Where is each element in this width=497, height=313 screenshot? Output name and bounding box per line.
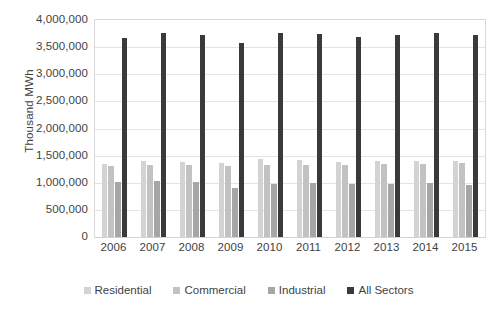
bar-residential-2010 bbox=[258, 159, 264, 237]
bar-group bbox=[173, 20, 212, 237]
bar-residential-2011 bbox=[297, 160, 303, 237]
bar-industrial-2008 bbox=[193, 182, 199, 237]
plot-area bbox=[94, 19, 486, 238]
x-axis-tick-label: 2010 bbox=[257, 241, 283, 253]
bar-commercial-2007 bbox=[147, 165, 153, 237]
legend-swatch-icon bbox=[84, 287, 91, 294]
y-axis-tick-label: 2,500,000 bbox=[22, 94, 88, 106]
y-axis-tick-label: 3,500,000 bbox=[22, 40, 88, 52]
bar-allsectors-2014 bbox=[434, 33, 440, 237]
bar-group bbox=[446, 20, 485, 237]
bar-allsectors-2007 bbox=[161, 33, 167, 237]
bar-allsectors-2012 bbox=[356, 37, 362, 237]
bar-industrial-2009 bbox=[232, 188, 238, 237]
x-axis-tick-label: 2007 bbox=[140, 241, 166, 253]
bar-industrial-2006 bbox=[115, 182, 121, 237]
legend-swatch-icon bbox=[347, 287, 354, 294]
bar-allsectors-2009 bbox=[239, 43, 245, 237]
bar-industrial-2013 bbox=[388, 184, 394, 237]
bar-residential-2006 bbox=[102, 164, 108, 237]
axis-baseline bbox=[95, 237, 485, 238]
legend-label: Residential bbox=[95, 284, 152, 296]
bar-commercial-2010 bbox=[264, 165, 270, 237]
bar-group bbox=[134, 20, 173, 237]
bar-allsectors-2010 bbox=[278, 33, 284, 237]
bar-industrial-2007 bbox=[154, 181, 160, 237]
bar-commercial-2014 bbox=[420, 164, 426, 237]
bar-industrial-2014 bbox=[427, 183, 433, 237]
y-axis-tick-label: 4,000,000 bbox=[22, 13, 88, 25]
bar-group bbox=[329, 20, 368, 237]
legend-label: Industrial bbox=[279, 284, 326, 296]
x-axis-tick-label: 2006 bbox=[101, 241, 127, 253]
bar-allsectors-2008 bbox=[200, 35, 206, 238]
legend-label: Commercial bbox=[184, 284, 245, 296]
bar-group bbox=[95, 20, 134, 237]
bar-group bbox=[290, 20, 329, 237]
legend-item[interactable]: All Sectors bbox=[347, 284, 413, 296]
x-axis-tick-label: 2009 bbox=[218, 241, 244, 253]
y-axis-tick-label: 1,500,000 bbox=[22, 149, 88, 161]
x-axis-tick-label: 2015 bbox=[452, 241, 478, 253]
x-axis-tick-label: 2013 bbox=[374, 241, 400, 253]
legend-item[interactable]: Industrial bbox=[268, 284, 326, 296]
bar-industrial-2015 bbox=[466, 185, 472, 237]
bar-commercial-2012 bbox=[342, 165, 348, 237]
bar-residential-2007 bbox=[141, 161, 147, 237]
bar-commercial-2006 bbox=[108, 166, 114, 237]
y-axis-tick-label: 500,000 bbox=[22, 203, 88, 215]
bar-allsectors-2013 bbox=[395, 35, 401, 237]
legend-item[interactable]: Commercial bbox=[173, 284, 245, 296]
bar-allsectors-2011 bbox=[317, 34, 323, 237]
bar-industrial-2010 bbox=[271, 184, 277, 237]
bar-industrial-2011 bbox=[310, 183, 316, 237]
bar-chart: Thousand MWh 4,000,0003,500,0003,000,000… bbox=[0, 0, 497, 313]
bar-commercial-2009 bbox=[225, 166, 231, 237]
y-axis-tick-label: 0 bbox=[22, 230, 88, 242]
y-axis-tick-labels: 4,000,0003,500,0003,000,0002,500,0002,00… bbox=[22, 19, 88, 238]
bar-residential-2014 bbox=[414, 161, 420, 237]
x-axis-tick-labels: 2006200720082009201020112012201320142015 bbox=[94, 241, 486, 263]
x-axis-tick-label: 2014 bbox=[413, 241, 439, 253]
bar-group bbox=[368, 20, 407, 237]
x-axis-tick-label: 2011 bbox=[296, 241, 321, 253]
bar-residential-2012 bbox=[336, 162, 342, 237]
bar-industrial-2012 bbox=[349, 184, 355, 237]
y-axis-tick-label: 3,000,000 bbox=[22, 67, 88, 79]
bar-residential-2013 bbox=[375, 161, 381, 237]
legend-label: All Sectors bbox=[358, 284, 413, 296]
bar-group bbox=[251, 20, 290, 237]
bar-residential-2008 bbox=[180, 162, 186, 237]
bar-commercial-2008 bbox=[186, 165, 192, 237]
y-axis-tick-label: 2,000,000 bbox=[22, 122, 88, 134]
x-axis-tick-label: 2008 bbox=[179, 241, 205, 253]
y-axis-tick-label: 1,000,000 bbox=[22, 176, 88, 188]
legend-item[interactable]: Residential bbox=[84, 284, 152, 296]
legend-swatch-icon bbox=[268, 287, 275, 294]
x-axis-tick-label: 2012 bbox=[335, 241, 361, 253]
bar-group bbox=[407, 20, 446, 237]
chart-legend: ResidentialCommercialIndustrialAll Secto… bbox=[0, 284, 497, 296]
bar-group bbox=[212, 20, 251, 237]
legend-swatch-icon bbox=[173, 287, 180, 294]
bar-residential-2009 bbox=[219, 163, 225, 237]
bar-residential-2015 bbox=[453, 161, 459, 237]
bar-commercial-2011 bbox=[303, 165, 309, 237]
bar-commercial-2013 bbox=[381, 164, 387, 237]
bar-allsectors-2015 bbox=[473, 35, 479, 237]
bar-commercial-2015 bbox=[459, 163, 465, 237]
bar-allsectors-2006 bbox=[122, 38, 128, 237]
